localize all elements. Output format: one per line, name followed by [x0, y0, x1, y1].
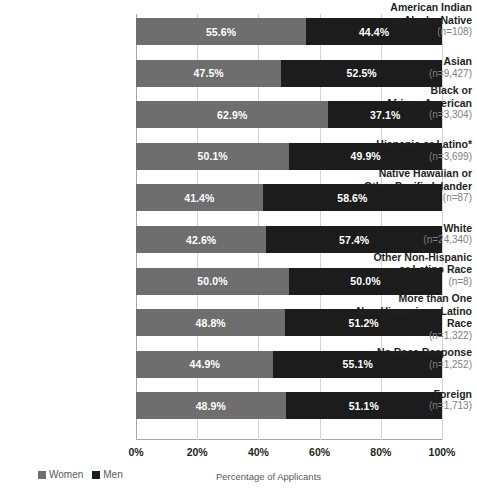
legend-item: Men: [92, 469, 122, 480]
x-axis-tick-label: 0%: [128, 446, 143, 458]
legend-swatch-icon: [38, 471, 46, 479]
category-label: Native Hawaiian orOther Pacific Islander…: [345, 167, 477, 205]
category-count: (n=3,304): [345, 109, 472, 122]
category-label-line: Other Non-Hispanic: [345, 251, 472, 264]
category-label-line: Hispanic or Latino*: [345, 138, 472, 151]
bar-value-women: 55.6%: [206, 26, 236, 38]
x-axis-tick-label: 60%: [309, 446, 330, 458]
category-label: Black orAfrican American(n=3,304): [345, 84, 477, 122]
bar-segment-women: 48.9%: [136, 392, 286, 419]
category-label-line: Foreign: [345, 388, 472, 401]
bar-segment-women: 42.6%: [136, 226, 266, 253]
bar-segment-women: 50.1%: [136, 143, 289, 170]
category-label-line: More than One: [345, 292, 472, 305]
bar-segment-women: 41.4%: [136, 184, 263, 211]
bar-value-women: 50.0%: [197, 275, 227, 287]
bar-value-women: 44.9%: [190, 358, 220, 370]
bar-value-women: 62.9%: [217, 109, 247, 121]
x-axis-tick-label: 20%: [187, 446, 208, 458]
bar-segment-women: 47.5%: [136, 60, 281, 87]
category-label: Hispanic or Latino*(n=3,699): [345, 138, 477, 163]
bar-segment-women: 48.8%: [136, 309, 285, 336]
category-label: White(n=24,340): [345, 222, 477, 247]
category-label-line: African American: [345, 97, 472, 110]
category-label-line: Native Hawaiian or: [345, 167, 472, 180]
x-axis-tick-label: 40%: [248, 446, 269, 458]
category-count: (n=9,427): [345, 68, 472, 81]
bar-value-women: 42.6%: [186, 234, 216, 246]
x-axis-tick-label: 80%: [370, 446, 391, 458]
legend-swatch-icon: [92, 471, 100, 479]
category-count: (n=1,252): [345, 359, 472, 372]
bar-value-women: 50.1%: [198, 150, 228, 162]
category-label: No Race Response(n=1,252): [345, 346, 477, 371]
bar-value-women: 41.4%: [184, 192, 214, 204]
bar-segment-women: 50.0%: [136, 268, 289, 295]
category-label-line: or Alaska Native: [345, 14, 472, 27]
category-count: (n=87): [345, 192, 472, 205]
legend-label: Men: [103, 469, 122, 480]
category-count: (n=1,322): [345, 330, 472, 343]
category-label: American Indianor Alaska Native(n=108): [345, 1, 477, 39]
category-label-line: Other Pacific Islander: [345, 180, 472, 193]
category-label-line: or Latino Race: [345, 263, 472, 276]
category-label-line: No Race Response: [345, 346, 472, 359]
legend-label: Women: [49, 469, 83, 480]
bar-value-women: 48.8%: [196, 317, 226, 329]
x-axis-line: [136, 439, 442, 440]
category-label: Foreign(n=1,713): [345, 388, 477, 413]
bar-segment-women: 55.6%: [136, 18, 306, 45]
chart-legend: WomenMen: [38, 469, 123, 480]
category-count: (n=8): [345, 276, 472, 289]
category-count: (n=24,340): [345, 234, 472, 247]
category-label-line: American Indian: [345, 1, 472, 14]
x-axis-tick-label: 100%: [429, 446, 456, 458]
bar-value-women: 48.9%: [196, 400, 226, 412]
bar-value-women: 47.5%: [194, 67, 224, 79]
category-count: (n=108): [345, 26, 472, 39]
stacked-bar-chart: 55.6%44.4%47.5%52.5%62.9%37.1%50.1%49.9%…: [0, 0, 477, 503]
bar-segment-women: 44.9%: [136, 351, 273, 378]
legend-item: Women: [38, 469, 83, 480]
category-label: Other Non-Hispanicor Latino Race(n=8): [345, 251, 477, 289]
category-label-line: White: [345, 222, 472, 235]
category-count: (n=3,699): [345, 151, 472, 164]
category-label-line: Black or: [345, 84, 472, 97]
category-label: More than OneNon-Hispanic or Latino Race…: [345, 292, 477, 342]
category-label: Asian(n=9,427): [345, 55, 477, 80]
category-count: (n=1,713): [345, 400, 472, 413]
category-label-line: Asian: [345, 55, 472, 68]
category-label-line: Non-Hispanic or Latino Race: [345, 305, 472, 330]
bar-segment-women: 62.9%: [136, 101, 328, 128]
